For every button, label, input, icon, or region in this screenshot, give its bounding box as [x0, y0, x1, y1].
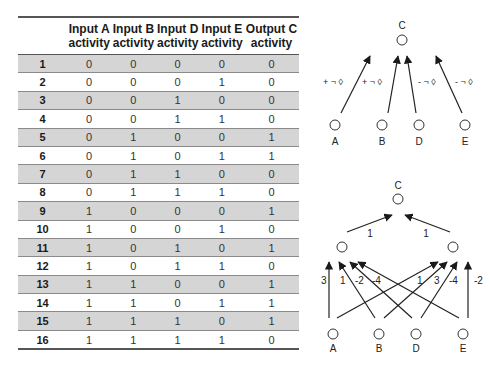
input-b-value: 0: [111, 202, 155, 220]
input-a-value: 0: [67, 55, 111, 73]
input-b-value: 0: [111, 220, 155, 238]
input-a-value: 1: [67, 238, 111, 256]
table-row: 910001: [18, 202, 299, 220]
input-d-value: 0: [156, 73, 200, 91]
svg-text:A: A: [330, 343, 337, 354]
input-b-value: 1: [111, 275, 155, 293]
svg-text:3: 3: [434, 275, 440, 286]
output-c-value: 0: [244, 220, 299, 238]
output-c-value: 0: [244, 110, 299, 128]
output-c-value: 0: [244, 330, 299, 349]
input-b-value: 0: [111, 257, 155, 275]
svg-text:-2: -2: [355, 275, 364, 286]
row-index: 11: [18, 238, 67, 256]
svg-text:B: B: [379, 136, 386, 147]
header-index: [18, 17, 67, 55]
svg-text:-4: -4: [449, 275, 458, 286]
output-c-value: 0: [244, 91, 299, 109]
table-row: 1411011: [18, 294, 299, 312]
row-index: 5: [18, 128, 67, 146]
svg-text:1: 1: [423, 228, 429, 239]
table-row: 400110: [18, 110, 299, 128]
row-index: 6: [18, 146, 67, 164]
bottom-input-node-e: [458, 329, 468, 339]
input-d-value: 0: [156, 202, 200, 220]
output-c-value: 1: [244, 128, 299, 146]
header-input-a: Input Aactivity: [67, 17, 111, 55]
input-d-value: 1: [156, 330, 200, 349]
row-index: 2: [18, 73, 67, 91]
input-e-value: 0: [200, 275, 244, 293]
table-row: 1110101: [18, 238, 299, 256]
output-c-value: 0: [244, 55, 299, 73]
input-e-value: 0: [200, 55, 244, 73]
row-index: 12: [18, 257, 67, 275]
input-b-value: 1: [111, 294, 155, 312]
input-b-value: 1: [111, 183, 155, 201]
input-a-value: 0: [67, 73, 111, 91]
table-row: 200010: [18, 73, 299, 91]
output-c-value: 0: [244, 257, 299, 275]
input-a-value: 1: [67, 257, 111, 275]
row-index: 8: [18, 183, 67, 201]
bottom-input-node-d: [411, 329, 421, 339]
input-d-value: 0: [156, 55, 200, 73]
table-row: 1010010: [18, 220, 299, 238]
top-edge-label-b: + ¬ ◊: [362, 77, 383, 87]
svg-text:-4: -4: [372, 275, 381, 286]
top-output-node: [397, 35, 407, 45]
input-e-value: 1: [200, 110, 244, 128]
bottom-network: C 1 1 3 1 -2 -4 1 3 -4 -2 A B D E: [321, 180, 483, 354]
top-edge-label-d: - ¬ ◊: [418, 77, 436, 87]
output-c-value: 1: [244, 202, 299, 220]
svg-text:A: A: [332, 136, 339, 147]
input-b-value: 0: [111, 73, 155, 91]
output-c-value: 1: [244, 312, 299, 330]
input-d-value: 1: [156, 312, 200, 330]
input-d-value: 1: [156, 257, 200, 275]
input-e-value: 1: [200, 330, 244, 349]
input-d-value: 0: [156, 220, 200, 238]
input-d-value: 0: [156, 128, 200, 146]
table-row: 601011: [18, 146, 299, 164]
row-index: 10: [18, 220, 67, 238]
input-b-value: 1: [111, 330, 155, 349]
input-a-value: 1: [67, 330, 111, 349]
svg-text:B: B: [376, 343, 383, 354]
input-e-value: 1: [200, 257, 244, 275]
input-a-value: 0: [67, 128, 111, 146]
input-d-value: 1: [156, 183, 200, 201]
network-diagrams: C + ¬ ◊ + ¬ ◊ - ¬ ◊ - ¬ ◊ A B D E C 1 1: [320, 0, 492, 365]
bottom-output-label: C: [394, 180, 401, 191]
hidden-node-right: [448, 242, 458, 252]
input-d-value: 0: [156, 294, 200, 312]
input-d-value: 0: [156, 275, 200, 293]
bottom-input-node-b: [374, 329, 384, 339]
table-row: 1511101: [18, 312, 299, 330]
row-index: 7: [18, 165, 67, 183]
table-row: 100000: [18, 55, 299, 73]
input-e-value: 0: [200, 238, 244, 256]
input-a-value: 0: [67, 146, 111, 164]
input-e-value: 1: [200, 146, 244, 164]
input-e-value: 0: [200, 165, 244, 183]
top-input-node-a: [330, 120, 340, 130]
input-a-value: 0: [67, 183, 111, 201]
table-header-row: Input Aactivity Input Bactivity Input Da…: [18, 17, 299, 55]
table-row: 501001: [18, 128, 299, 146]
input-d-value: 1: [156, 238, 200, 256]
input-b-value: 1: [111, 165, 155, 183]
svg-text:3: 3: [321, 275, 327, 286]
output-c-value: 0: [244, 73, 299, 91]
input-a-value: 1: [67, 275, 111, 293]
input-a-value: 1: [67, 220, 111, 238]
input-d-value: 1: [156, 165, 200, 183]
top-network: C + ¬ ◊ + ¬ ◊ - ¬ ◊ - ¬ ◊ A B D E: [323, 20, 473, 147]
top-edge-label-a: + ¬ ◊: [323, 77, 344, 87]
output-c-value: 0: [244, 165, 299, 183]
row-index: 1: [18, 55, 67, 73]
input-a-value: 0: [67, 165, 111, 183]
input-d-value: 1: [156, 110, 200, 128]
svg-text:E: E: [460, 343, 467, 354]
input-b-value: 0: [111, 55, 155, 73]
